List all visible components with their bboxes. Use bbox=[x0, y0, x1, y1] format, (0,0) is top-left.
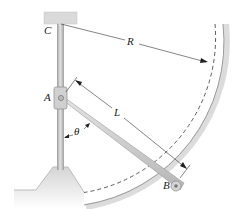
arrowhead-icon bbox=[75, 80, 82, 86]
length-dimension-line bbox=[76, 81, 112, 108]
mechanism-diagram bbox=[0, 0, 239, 209]
radius-path-dashed bbox=[81, 24, 216, 193]
circular-track bbox=[86, 24, 227, 207]
length-dimension-line bbox=[124, 118, 186, 168]
pin-b bbox=[174, 184, 178, 188]
pin-a bbox=[58, 95, 63, 100]
length-extension-a bbox=[66, 77, 77, 92]
label-a: A bbox=[44, 92, 51, 103]
arm-ab bbox=[58, 93, 184, 190]
arrowhead-icon bbox=[200, 58, 208, 63]
ground-support bbox=[14, 167, 84, 209]
radius-dimension-line bbox=[139, 44, 206, 62]
label-l: L bbox=[114, 107, 120, 118]
ceiling-support bbox=[44, 12, 77, 24]
label-c: C bbox=[44, 25, 51, 36]
arrowhead-icon bbox=[180, 162, 187, 169]
label-theta: θ bbox=[74, 126, 79, 137]
radius-dimension-line bbox=[61, 24, 125, 40]
label-r: R bbox=[127, 36, 134, 47]
label-b: B bbox=[163, 180, 170, 191]
arrowhead-icon bbox=[64, 134, 69, 138]
